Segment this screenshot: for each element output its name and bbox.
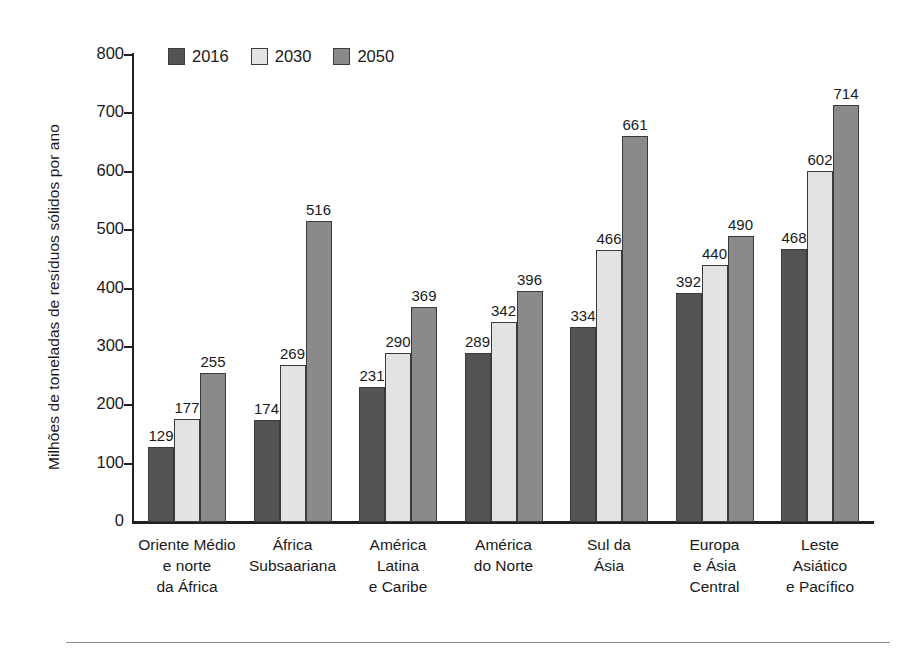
bar[interactable]	[676, 293, 702, 522]
bar[interactable]	[411, 307, 437, 522]
bar-value-label: 342	[491, 302, 516, 319]
bar-slot: 369	[411, 55, 437, 522]
bar-value-label: 289	[465, 333, 490, 350]
bar-value-label: 392	[676, 273, 701, 290]
bar-slot: 289	[465, 55, 491, 522]
y-tick-mark	[124, 463, 132, 465]
bar[interactable]	[254, 420, 280, 522]
bar-slot: 342	[491, 55, 517, 522]
bar-slot: 269	[280, 55, 306, 522]
bar-value-label: 468	[781, 229, 806, 246]
plot-area: 1291772551742695162312903692893423963344…	[132, 55, 880, 522]
bar-value-label: 516	[306, 201, 331, 218]
bar-slot: 714	[833, 55, 859, 522]
bar-value-label: 602	[807, 151, 832, 168]
bar-value-label: 440	[702, 245, 727, 262]
y-tick-label: 300	[78, 336, 124, 355]
bar-group: 334466661	[570, 55, 648, 522]
bar-slot: 290	[385, 55, 411, 522]
bar-slot: 516	[306, 55, 332, 522]
bar[interactable]	[174, 419, 200, 522]
bar[interactable]	[280, 365, 306, 522]
y-tick-label: 500	[78, 219, 124, 238]
bar-value-label: 174	[254, 400, 279, 417]
y-tick-mark	[124, 229, 132, 231]
bar-value-label: 255	[200, 353, 225, 370]
y-tick-label: 700	[78, 102, 124, 121]
bar[interactable]	[359, 387, 385, 522]
y-tick-mark	[124, 288, 132, 290]
y-tick-mark	[124, 112, 132, 114]
y-tick-label: 400	[78, 278, 124, 297]
bar[interactable]	[833, 105, 859, 522]
y-tick-label: 0	[78, 511, 124, 530]
bar-value-label: 661	[622, 116, 647, 133]
bar-group: 392440490	[676, 55, 754, 522]
bar[interactable]	[781, 249, 807, 522]
bar[interactable]	[517, 291, 543, 522]
bar[interactable]	[465, 353, 491, 522]
y-tick-label: 200	[78, 394, 124, 413]
bar[interactable]	[596, 250, 622, 522]
bar-slot: 468	[781, 55, 807, 522]
bar[interactable]	[622, 136, 648, 522]
bar[interactable]	[491, 322, 517, 522]
bar-slot: 466	[596, 55, 622, 522]
bar-slot: 396	[517, 55, 543, 522]
bar-value-label: 129	[148, 427, 173, 444]
bar-slot: 174	[254, 55, 280, 522]
footer-divider	[66, 642, 890, 643]
bar-slot: 177	[174, 55, 200, 522]
bar-group: 468602714	[781, 55, 859, 522]
bar-slot: 661	[622, 55, 648, 522]
bar-slot: 334	[570, 55, 596, 522]
y-tick-label: 100	[78, 453, 124, 472]
bar[interactable]	[306, 221, 332, 522]
bar-slot: 440	[702, 55, 728, 522]
bar[interactable]	[702, 265, 728, 522]
bar[interactable]	[570, 327, 596, 522]
chart-figure: Milhões de toneladas de resíduos sólidos…	[0, 0, 924, 648]
bar-slot: 255	[200, 55, 226, 522]
y-tick-label: 600	[78, 161, 124, 180]
bar-group: 289342396	[465, 55, 543, 522]
bar-value-label: 177	[174, 399, 199, 416]
y-tick-mark	[124, 171, 132, 173]
bar-value-label: 231	[359, 367, 384, 384]
bar-group: 129177255	[148, 55, 226, 522]
bar-value-label: 269	[280, 345, 305, 362]
y-tick-mark	[124, 346, 132, 348]
y-tick-label: 800	[78, 44, 124, 63]
bar[interactable]	[807, 171, 833, 522]
bar-value-label: 466	[596, 230, 621, 247]
bar-value-label: 490	[728, 216, 753, 233]
bar-value-label: 369	[411, 287, 436, 304]
bar-value-label: 396	[517, 271, 542, 288]
y-tick-mark	[124, 404, 132, 406]
bar-slot: 490	[728, 55, 754, 522]
bar-slot: 231	[359, 55, 385, 522]
bar-group: 174269516	[254, 55, 332, 522]
bar-slot: 392	[676, 55, 702, 522]
bar-value-label: 714	[833, 85, 858, 102]
y-axis-title: Milhões de toneladas de resíduos sólidos…	[45, 67, 63, 527]
x-category-label: Leste Asiático e Pacífico	[745, 534, 895, 597]
bar-value-label: 334	[570, 307, 595, 324]
bar-slot: 602	[807, 55, 833, 522]
bar-group: 231290369	[359, 55, 437, 522]
bar[interactable]	[728, 236, 754, 522]
bar-slot: 129	[148, 55, 174, 522]
bar-value-label: 290	[385, 333, 410, 350]
y-tick-mark	[124, 54, 132, 56]
bar[interactable]	[385, 353, 411, 522]
bar[interactable]	[200, 373, 226, 522]
bar[interactable]	[148, 447, 174, 522]
